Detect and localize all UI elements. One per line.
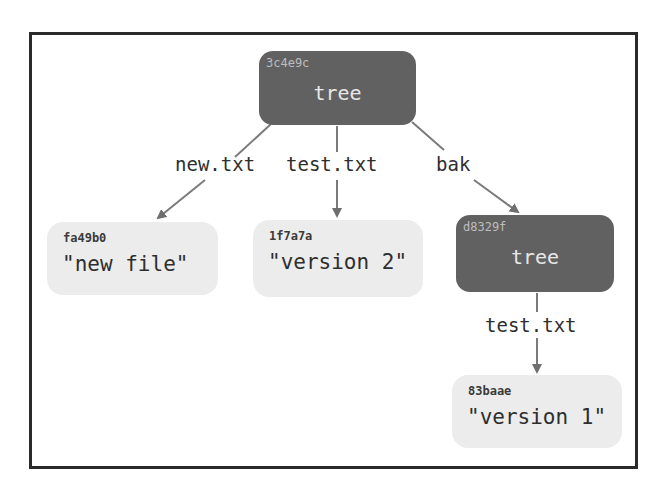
edge-label-bak-test-txt: test.txt bbox=[485, 314, 577, 336]
edge-root-to-bak-line-upper bbox=[412, 122, 444, 150]
blob-node-version-1: 83baae "version 1" bbox=[452, 375, 622, 448]
node-hash: 1f7a7a bbox=[269, 229, 312, 243]
edge-root-to-bak-arrow bbox=[474, 180, 518, 212]
blob-node-version-2: 1f7a7a "version 2" bbox=[253, 220, 423, 297]
node-hash: 83baae bbox=[468, 384, 511, 398]
edge-label-new-txt: new.txt bbox=[175, 153, 255, 175]
node-hash: fa49b0 bbox=[63, 231, 106, 245]
node-label: "new file" bbox=[62, 252, 218, 276]
node-hash: d8329f bbox=[463, 220, 506, 234]
edge-root-to-new-arrow bbox=[158, 180, 205, 218]
node-label: tree bbox=[259, 81, 416, 105]
node-hash: 3c4e9c bbox=[266, 56, 309, 70]
node-label: "version 1" bbox=[467, 405, 622, 429]
blob-node-new-file: fa49b0 "new file" bbox=[47, 222, 218, 295]
edge-label-bak: bak bbox=[436, 153, 470, 175]
tree-node-bak: d8329f tree bbox=[456, 215, 614, 292]
edge-label-test-txt: test.txt bbox=[286, 153, 378, 175]
node-label: "version 2" bbox=[268, 250, 423, 274]
tree-node-root: 3c4e9c tree bbox=[259, 51, 416, 125]
node-label: tree bbox=[456, 245, 614, 269]
